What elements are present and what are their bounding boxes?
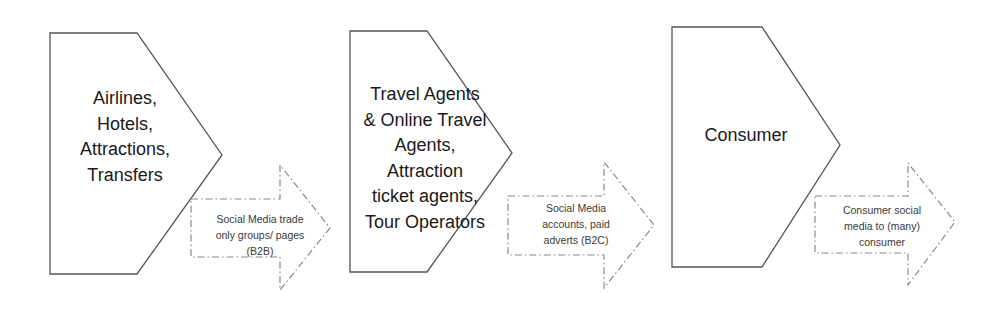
flow-shape-c2c[interactable] [815, 163, 955, 285]
flow-shape-b2b[interactable] [191, 165, 330, 290]
process-flow-diagram [0, 0, 991, 315]
stage-shape-intermediaries[interactable] [350, 31, 512, 272]
flow-shape-b2c[interactable] [508, 162, 654, 288]
